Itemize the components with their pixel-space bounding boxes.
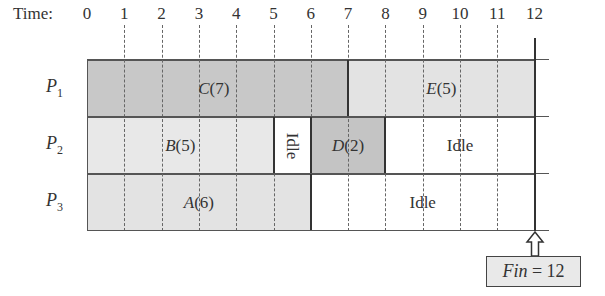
processor-index: 3 [57,199,63,213]
arrow-up-icon [525,231,545,257]
task-boundary [310,174,312,231]
idle-label: Idle [447,136,473,156]
time-tick-label: 11 [482,4,512,24]
row-divider [87,230,549,231]
processor-label: P1 [46,76,76,101]
idle-label: Idle [282,132,302,158]
row-divider [87,173,549,174]
task-label: B(5) [165,136,195,156]
processor-name: P [46,76,57,96]
finish-time-box: Fin = 12 [486,256,581,287]
task-name: D [332,136,344,155]
processor-label: P2 [46,133,76,158]
processor-index: 1 [57,85,63,99]
task-duration: (2) [344,136,364,155]
task-name: A [184,193,194,212]
time-gridline [497,25,498,231]
time-axis-label: Time: [13,4,53,24]
time-tick-label: 5 [259,4,289,24]
task-name: E [426,79,436,98]
time-tick-label: 3 [184,4,214,24]
task-duration: (6) [194,193,214,212]
task-label: A(6) [184,193,214,213]
time-tick-label: 12 [520,4,550,24]
task-duration: (7) [210,79,230,98]
time-tick-label: 1 [109,4,139,24]
time-tick-label: 4 [221,4,251,24]
time-gridline [236,25,237,231]
task-duration: (5) [437,79,457,98]
task-boundary [347,60,349,117]
time-tick-label: 8 [370,4,400,24]
task-boundary [384,117,386,174]
task-boundary [310,117,312,174]
finish-value: = 12 [527,261,564,281]
time-tick-label: 0 [72,4,102,24]
idle-label: Idle [409,193,435,213]
task-name: C [198,79,209,98]
task-name: B [165,136,175,155]
finish-variable: Fin [502,261,527,281]
task-boundary [273,117,275,174]
time-tick-label: 9 [408,4,438,24]
processor-index: 2 [57,142,63,156]
time-gridline [162,25,163,231]
time-gridline [348,25,349,231]
task-label: C(7) [198,79,229,99]
gantt-chart: Time:0123456789101112C(7)E(5)B(5)IdleD(2… [0,0,605,296]
task-label: E(5) [426,79,456,99]
row-divider [87,116,549,117]
time-tick-label: 6 [296,4,326,24]
processor-name: P [46,190,57,210]
processor-name: P [46,133,57,153]
task-label: D(2) [332,136,364,156]
time-gridline [124,25,125,231]
time-tick-label: 7 [333,4,363,24]
task-duration: (5) [176,136,196,155]
finish-line [534,38,536,231]
time-tick-label: 10 [445,4,475,24]
processor-label: P3 [46,190,76,215]
time-gridline [460,25,461,231]
time-tick-label: 2 [147,4,177,24]
row-divider [87,59,549,60]
